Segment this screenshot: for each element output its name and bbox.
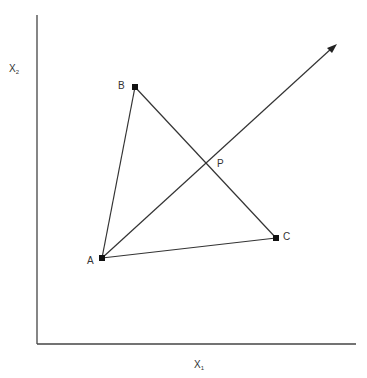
point-p-label: P (217, 158, 224, 169)
diagram-canvas: X2 X1 A B C P (0, 0, 367, 378)
edge-ac (102, 238, 276, 258)
point-b-marker (132, 84, 138, 90)
edge-bc (135, 87, 276, 238)
point-c-label: C (283, 231, 290, 242)
point-b-label: B (118, 80, 125, 91)
y-axis-label: X2 (9, 63, 20, 75)
x-axis-label: X1 (194, 359, 205, 371)
point-a-marker (99, 255, 105, 261)
point-a-label: A (87, 255, 94, 266)
direction-arrow-line (102, 48, 332, 258)
point-c-marker (273, 235, 279, 241)
